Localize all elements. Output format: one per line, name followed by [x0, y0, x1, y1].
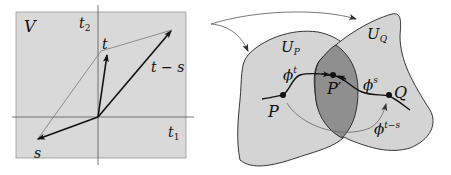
diagram-canvas: V t2 t t − s t1 s UP UQ	[0, 0, 451, 175]
vector-space-box	[16, 12, 186, 158]
point-p-label: P	[267, 102, 279, 121]
space-label: V	[24, 17, 37, 36]
point-q	[386, 92, 392, 98]
vector-t-label: t	[102, 36, 108, 52]
point-pprime	[330, 72, 336, 78]
chart-map-arrow-up	[211, 12, 356, 24]
point-pprime-label: P′	[326, 79, 342, 98]
arrow-to-pprime-left	[322, 74, 330, 75]
vector-t-minus-s-label: t − s	[151, 59, 184, 75]
chart-map-arrow-p	[211, 24, 248, 51]
point-p	[280, 92, 286, 98]
point-q-label: Q	[394, 83, 407, 102]
vector-space-panel: V t2 t t − s t1 s	[12, 5, 194, 165]
vector-s-label: s	[34, 145, 41, 161]
manifold-panel: UP UQ ϕt ϕs ϕt−s P P′ Q	[238, 14, 433, 166]
